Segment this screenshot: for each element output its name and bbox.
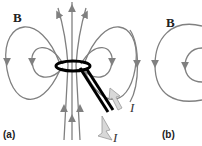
field-label-b: B (166, 15, 175, 30)
field-lines-b (130, 24, 202, 102)
current-loop (56, 61, 113, 112)
current-label-1: I (112, 130, 118, 145)
caption-a: (a) (3, 129, 15, 140)
magnetic-field-diagram: B (a) I I B (b) (0, 0, 202, 146)
current-label-2: I (129, 100, 135, 115)
field-label-a: B (13, 10, 22, 25)
caption-b: (b) (162, 129, 175, 140)
